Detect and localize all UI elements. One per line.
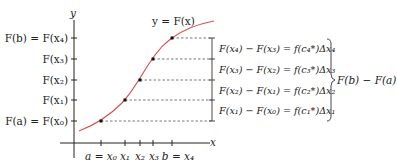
x-tick-label-a: a = x₀ [85, 150, 118, 162]
y-tick-label-fb: F(b) = F(x₄) [5, 32, 68, 44]
x-axis-label: x [210, 136, 216, 148]
y-tick-label-fx1: F(x₁) [42, 94, 68, 106]
brace-label: F(b) − F(a) [336, 74, 396, 86]
x-tick-label-x3: x₃ [149, 150, 159, 162]
x-tick-label-x1: x₁ [120, 150, 130, 162]
y-axis-label: y [69, 7, 77, 19]
y-tick-label-fx2: F(x₂) [42, 74, 68, 86]
curve-label: y = F(x) [151, 15, 195, 27]
diagram: y x F(b) = F(x₄) F(x₃) F(x₂) F(x₁) F(a) … [0, 0, 397, 167]
equation-3: F(x₃) − F(x₂) = f(c₃*)Δx₃ [218, 64, 335, 75]
equation-2: F(x₂) − F(x₁) = f(c₂*)Δx₂ [218, 85, 335, 96]
y-tick-label-fa: F(a) = F(x₀) [5, 115, 68, 127]
y-tick-label-fx3: F(x₃) [42, 53, 68, 65]
equation-4: F(x₄) − F(x₃) = f(c₄*)Δx₄ [218, 43, 335, 54]
equation-1: F(x₁) − F(x₀) = f(c₁*)Δx₁ [218, 105, 335, 116]
curve-F [79, 21, 214, 131]
x-tick-label-b: b = x₄ [162, 150, 194, 162]
x-tick-label-x2: x₂ [135, 150, 145, 162]
